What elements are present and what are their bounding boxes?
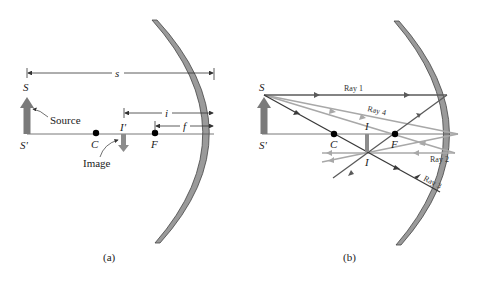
panel-b: S S' C F I I Ray 1 Ray 2 Ray 3 Ray 4 (b)	[257, 21, 458, 264]
ray-2	[264, 95, 455, 153]
label-s-top: S	[23, 81, 29, 93]
label-f-b: F	[390, 138, 398, 150]
label-dim-i: i	[165, 107, 168, 119]
label-image: Image	[83, 157, 111, 169]
concave-mirror-b	[394, 21, 450, 245]
image-arrow-b	[365, 134, 369, 152]
label-s-base-b: S'	[259, 139, 268, 151]
label-ray-1: Ray 1	[344, 84, 363, 93]
focal-point-f-b	[392, 131, 398, 137]
label-dim-f: f	[183, 120, 188, 132]
label-i-lower: I	[364, 156, 370, 168]
image-pointer	[100, 140, 118, 157]
ray-1	[264, 95, 447, 178]
label-s-top-b: S	[259, 81, 265, 93]
label-image-i-prime: I'	[119, 121, 127, 133]
center-point-c	[93, 130, 99, 136]
image-arrow	[118, 134, 129, 152]
center-point-c-b	[331, 131, 337, 137]
label-f: F	[150, 138, 158, 150]
label-c-b: C	[330, 138, 338, 150]
ray-4	[264, 95, 458, 162]
dimension-s	[27, 68, 214, 80]
label-dim-s: s	[115, 67, 119, 79]
concave-mirror	[152, 20, 209, 243]
label-c: C	[91, 138, 99, 150]
caption-a: (a)	[103, 251, 116, 264]
source-arrow	[20, 97, 34, 134]
source-arrow-b	[257, 97, 271, 134]
label-source: Source	[50, 114, 81, 126]
caption-b: (b)	[343, 251, 356, 264]
panel-a: S S' Source C F I' Image s i f (a)	[20, 20, 214, 264]
label-s-base: S'	[20, 139, 29, 151]
source-pointer	[33, 109, 48, 117]
mirror-diagram: S S' Source C F I' Image s i f (a)	[0, 0, 480, 283]
dimension-i	[124, 108, 213, 118]
label-i-upper: I	[364, 120, 370, 132]
label-ray-2: Ray 2	[430, 155, 449, 164]
